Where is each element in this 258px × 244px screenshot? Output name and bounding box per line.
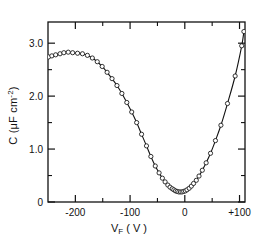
data-point-marker: [95, 60, 99, 64]
data-point-marker: [157, 171, 161, 175]
data-point-marker: [125, 100, 129, 104]
data-point-marker: [233, 74, 237, 78]
data-point-marker: [135, 120, 139, 124]
axis-frame: [48, 22, 245, 202]
y-tick-label: 0: [37, 197, 43, 208]
data-point-marker: [120, 91, 124, 95]
data-point-marker: [194, 178, 198, 182]
data-point-marker: [90, 56, 94, 60]
data-point-marker: [130, 110, 134, 114]
data-series-group: [46, 29, 246, 194]
data-point-marker: [160, 176, 164, 180]
data-point-marker: [213, 138, 217, 142]
data-point-marker: [208, 151, 212, 155]
data-point-marker: [139, 132, 143, 136]
data-point-marker: [219, 123, 223, 127]
data-point-marker: [85, 53, 89, 57]
y-axis-label-exponent: -2: [6, 90, 15, 98]
data-point-marker: [115, 83, 119, 87]
data-point-marker: [204, 161, 208, 165]
data-point-marker: [197, 174, 201, 178]
y-axis-label-main: C (: [7, 129, 19, 144]
y-tick-label: 3.0: [29, 38, 43, 49]
plot-area: -200-1000+10001.02.03.0: [0, 0, 258, 244]
x-tick-label: -200: [65, 207, 85, 218]
data-point-marker: [62, 51, 66, 55]
data-point-marker: [240, 44, 244, 48]
data-point-marker: [75, 51, 79, 55]
x-tick-label: 0: [182, 207, 188, 218]
data-point-marker: [144, 144, 148, 148]
y-axis-label-close: ): [7, 86, 19, 90]
y-tick-label: 2.0: [29, 91, 43, 102]
x-axis-label: VF ( V ): [0, 222, 258, 236]
data-point-marker: [80, 52, 84, 56]
x-tick-label: -100: [120, 207, 140, 218]
data-point-marker: [153, 164, 157, 168]
data-point-marker: [71, 51, 75, 55]
data-point-marker: [54, 53, 58, 57]
data-point-marker: [200, 168, 204, 172]
x-axis-label-unit: ( V ): [123, 222, 147, 234]
y-tick-label: 1.0: [29, 144, 43, 155]
data-point-marker: [110, 77, 114, 81]
data-point-marker: [105, 70, 109, 74]
chart-figure: -200-1000+10001.02.03.0 C (μF cm-2) VF (…: [0, 0, 258, 244]
data-point-marker: [225, 101, 229, 105]
data-point-marker: [100, 64, 104, 68]
data-point-marker: [149, 154, 153, 158]
data-point-marker: [66, 50, 70, 54]
x-tick-label: +100: [228, 207, 251, 218]
y-axis-label: C (μF cm-2): [2, 60, 22, 170]
y-axis-label-unit: μF cm: [7, 97, 19, 129]
